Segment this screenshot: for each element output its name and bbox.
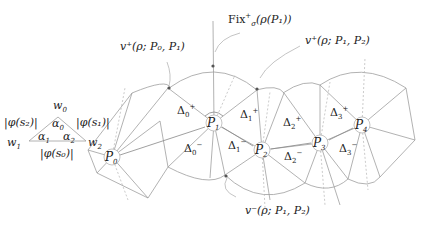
vertex-w2: w2 — [88, 137, 102, 148]
v-plus-p0-p1: v⁺(ρ; P₀, P₁) — [120, 41, 185, 52]
vertex-w1: w1 — [7, 137, 21, 148]
edge-left-label: |φ(s₂)| — [4, 117, 38, 128]
v-plus-p1-p2: v⁺(ρ; P₁, P₂) — [305, 35, 370, 46]
delta-0-minus: Δ0− — [184, 143, 202, 154]
delta-0-plus: Δ0+ — [177, 105, 195, 116]
vertex-w0: w0 — [53, 100, 67, 111]
delta-2-minus: Δ2− — [284, 151, 302, 162]
edge-bottom-label: |φ(s₀)| — [40, 148, 74, 159]
fix-annotation: Fix+σ(ρ(P₁)) — [228, 14, 291, 25]
label-p3: P3 — [313, 137, 326, 149]
label-p0: P0 — [105, 151, 118, 163]
edge-right-label: |φ(s₁)| — [76, 117, 110, 128]
label-p2: P2 — [255, 144, 268, 156]
angle-alpha0: α0 — [52, 118, 64, 129]
delta-3-minus: Δ3− — [339, 143, 357, 154]
label-p1: P1 — [207, 117, 220, 129]
delta-3-plus: Δ3+ — [330, 107, 348, 118]
label-p4: P4 — [355, 119, 368, 131]
delta-1-plus: Δ1+ — [240, 109, 258, 120]
angle-alpha1: α1 — [38, 131, 50, 142]
v-minus-p1-p2: v⁻(ρ; P₁, P₂) — [245, 205, 310, 216]
delta-1-minus: Δ1− — [228, 140, 246, 151]
angle-alpha2: α2 — [63, 131, 75, 142]
delta-2-plus: Δ2+ — [283, 117, 301, 128]
